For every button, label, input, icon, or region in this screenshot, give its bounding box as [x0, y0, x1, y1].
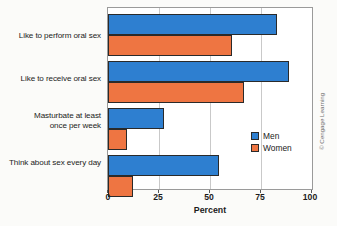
tick-label-100: 100 — [303, 192, 317, 202]
legend-item-men[interactable]: Men — [251, 131, 292, 141]
plot-area: Men Women — [107, 7, 313, 190]
category-label-2-line2: once per week — [0, 121, 101, 131]
category-label-1: Like to receive oral sex — [0, 74, 101, 84]
category-label-2-line1: Masturbate at least — [0, 111, 101, 121]
copyright-credit: © Cengage Learning — [318, 93, 325, 150]
legend-swatch-men-icon — [251, 132, 259, 140]
bar-men-0[interactable] — [108, 14, 277, 35]
legend-swatch-women-icon — [251, 144, 259, 152]
bar-women-2[interactable] — [108, 129, 127, 150]
tick-label-75: 75 — [255, 192, 265, 202]
bar-men-2[interactable] — [108, 108, 164, 129]
category-label-3: Think about sex every day — [0, 158, 101, 168]
category-label-1-line1: Like to receive oral sex — [21, 74, 101, 83]
category-label-0-line1: Like to perform oral sex — [19, 31, 101, 40]
category-label-column: Like to perform oral sex Like to receive… — [0, 0, 104, 196]
legend: Men Women — [251, 131, 292, 155]
category-label-2: Masturbate at least once per week — [0, 111, 101, 131]
tick-label-50: 50 — [204, 192, 214, 202]
legend-label-men: Men — [263, 131, 279, 141]
legend-item-women[interactable]: Women — [251, 143, 292, 153]
legend-label-women: Women — [263, 143, 292, 153]
x-axis-tick-labels: 0 25 50 75 100 — [107, 192, 313, 205]
bars-layer — [108, 8, 312, 189]
bar-men-3[interactable] — [108, 155, 219, 176]
bar-chart-figure: Like to perform oral sex Like to receive… — [0, 0, 337, 226]
category-label-0: Like to perform oral sex — [0, 31, 101, 41]
bar-men-1[interactable] — [108, 61, 289, 82]
bar-women-1[interactable] — [108, 82, 244, 103]
x-axis-title: Percent — [107, 205, 313, 215]
bar-women-0[interactable] — [108, 35, 232, 56]
tick-label-0: 0 — [106, 192, 111, 202]
tick-label-25: 25 — [153, 192, 163, 202]
category-label-3-line1: Think about sex every day — [9, 158, 101, 167]
